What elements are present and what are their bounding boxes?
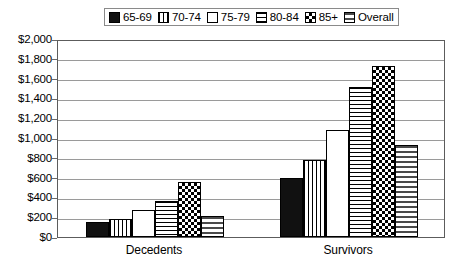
- bar-survivors-80-84: [349, 87, 372, 237]
- legend-item-overall: Overall: [344, 11, 394, 23]
- plot-area: [57, 40, 445, 238]
- y-axis-tick-label: $1,600: [0, 74, 52, 85]
- legend-label-65-69: 65-69: [123, 11, 152, 23]
- legend-item-65-69: 65-69: [109, 11, 152, 23]
- y-axis-tick-label: $200: [0, 212, 52, 223]
- legend-swatch-sparse-dots-icon: [344, 12, 355, 23]
- bar-survivors-75-79: [326, 130, 349, 237]
- y-axis-tick-label: $0: [0, 232, 52, 243]
- x-axis-category-label: Decedents: [57, 243, 251, 257]
- legend-swatch-checkerboard-icon: [305, 12, 316, 23]
- bar-survivors-70-74: [303, 160, 326, 237]
- bar-decedents-70-74: [109, 219, 132, 237]
- y-axis-tick-label: $1,800: [0, 54, 52, 65]
- chart-legend: 65-69 70-74 75-79 80-84 85+ Overall: [104, 8, 399, 26]
- legend-label-overall: Overall: [358, 11, 394, 23]
- y-axis-tick-label: $1,200: [0, 113, 52, 124]
- bar-decedents-75-79: [132, 210, 155, 237]
- y-axis-tick-label: $800: [0, 153, 52, 164]
- legend-swatch-white-empty-icon: [207, 12, 218, 23]
- bar-decedents-80-84: [155, 201, 178, 237]
- bar-survivors-65-69: [280, 178, 303, 237]
- bar-decedents-85plus: [178, 182, 201, 237]
- bar-survivors-85plus: [372, 66, 395, 237]
- bar-chart: 65-69 70-74 75-79 80-84 85+ Overall $2,0…: [0, 0, 456, 267]
- legend-swatch-solid-black-icon: [109, 12, 120, 23]
- legend-label-80-84: 80-84: [270, 11, 299, 23]
- gridline: [58, 60, 444, 61]
- y-axis-tick-label: $600: [0, 173, 52, 184]
- legend-label-85-plus: 85+: [319, 11, 338, 23]
- y-axis-tick-label: $2,000: [0, 34, 52, 45]
- legend-item-70-74: 70-74: [158, 11, 201, 23]
- legend-label-70-74: 70-74: [172, 11, 201, 23]
- y-axis-tick-label: $1,400: [0, 93, 52, 104]
- bar-decedents-65-69: [86, 222, 109, 237]
- legend-swatch-vertical-lines-icon: [158, 12, 169, 23]
- bar-decedents-Overall: [201, 216, 224, 237]
- legend-item-75-79: 75-79: [207, 11, 250, 23]
- x-axis-category-label: Survivors: [251, 243, 445, 257]
- y-axis-tick-label: $1,000: [0, 133, 52, 144]
- legend-label-75-79: 75-79: [221, 11, 250, 23]
- bar-survivors-Overall: [395, 145, 418, 237]
- y-axis-tick-label: $400: [0, 192, 52, 203]
- legend-swatch-horizontal-lines-icon: [256, 12, 267, 23]
- legend-item-85-plus: 85+: [305, 11, 338, 23]
- legend-item-80-84: 80-84: [256, 11, 299, 23]
